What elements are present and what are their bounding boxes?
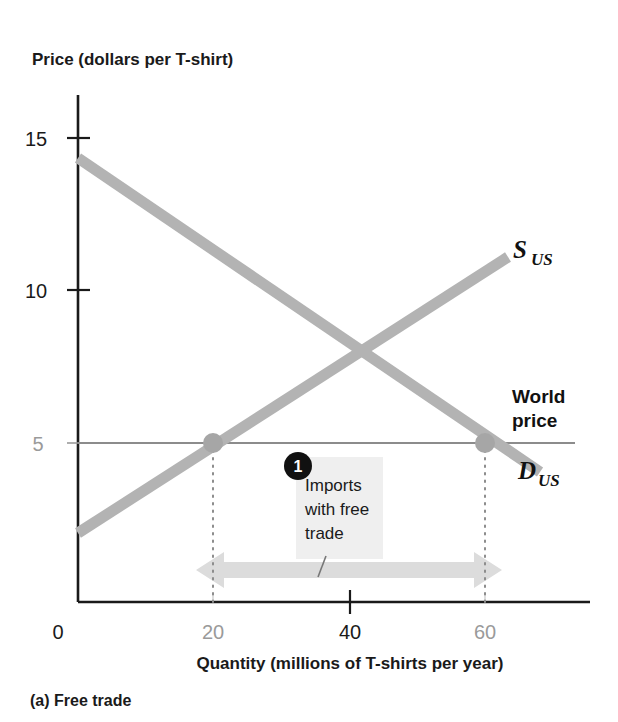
supply-curve-label: S US	[513, 236, 553, 269]
free-trade-chart: Price (dollars per T-shirt) 15 10 5 0 20…	[0, 0, 618, 722]
demand-curve-label: D US	[517, 457, 560, 490]
marker-demand-at-world-price	[475, 433, 495, 453]
demand-curve-label-sub: US	[538, 471, 560, 490]
supply-curve-label-main: S	[513, 236, 527, 263]
marker-supply-at-world-price	[203, 433, 223, 453]
imports-badge-number: 1	[294, 458, 303, 475]
y-axis-title: Price (dollars per T-shirt)	[32, 50, 233, 69]
x-tick-label-0: 0	[52, 621, 63, 643]
imports-callout-line-3: trade	[305, 524, 344, 543]
demand-curve-label-main: D	[517, 457, 536, 484]
figure-root: Price (dollars per T-shirt) 15 10 5 0 20…	[0, 0, 618, 722]
y-tick-label-10: 10	[25, 280, 47, 302]
supply-curve-label-sub: US	[531, 250, 553, 269]
world-price-label-line2: price	[512, 410, 557, 431]
imports-badge: 1	[284, 452, 312, 480]
y-tick-label-5: 5	[32, 433, 43, 455]
x-tick-label-60: 60	[474, 621, 496, 643]
world-price-label: World price	[512, 386, 565, 431]
world-price-label-line1: World	[512, 386, 565, 407]
panel-caption: (a) Free trade	[30, 692, 131, 709]
imports-callout-line-2: with free	[304, 500, 369, 519]
x-axis-title: Quantity (millions of T-shirts per year)	[197, 654, 504, 673]
imports-callout-line-1: Imports	[305, 476, 362, 495]
demand-curve	[78, 158, 540, 472]
y-tick-label-15: 15	[25, 128, 47, 150]
x-tick-label-40: 40	[339, 621, 361, 643]
x-tick-label-20: 20	[202, 621, 224, 643]
